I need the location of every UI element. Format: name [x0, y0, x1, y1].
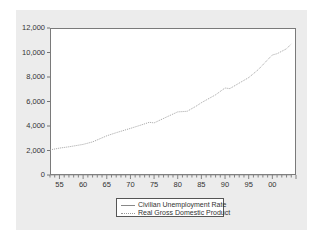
- y-tick-label: 10,000: [5, 48, 45, 57]
- legend: Civilian Unemployment Rate Real Gross Do…: [116, 198, 224, 217]
- y-tick-label: 0: [5, 170, 45, 179]
- y-tick-label: 8,000: [5, 72, 45, 81]
- x-tick-label: 00: [262, 180, 282, 189]
- dotted-line-swatch-icon: [121, 213, 135, 214]
- x-tick-label: 95: [239, 180, 259, 189]
- solid-line-swatch-icon: [121, 205, 135, 206]
- legend-label: Real Gross Domestic Product: [138, 209, 230, 216]
- gdp-line: [50, 44, 291, 150]
- axes: [47, 28, 296, 179]
- x-tick-label: 65: [97, 180, 117, 189]
- x-tick-label: 55: [49, 180, 69, 189]
- x-tick-label: 60: [73, 180, 93, 189]
- legend-label: Civilian Unemployment Rate: [138, 201, 226, 208]
- y-tick-label: 6,000: [5, 97, 45, 106]
- y-tick-label: 4,000: [5, 121, 45, 130]
- x-tick-label: 90: [215, 180, 235, 189]
- y-tick-label: 2,000: [5, 146, 45, 155]
- x-tick-label: 75: [144, 180, 164, 189]
- x-tick-label: 80: [168, 180, 188, 189]
- x-tick-label: 70: [120, 180, 140, 189]
- y-tick-label: 12,000: [5, 23, 45, 32]
- legend-item-unemployment: Civilian Unemployment Rate: [121, 201, 226, 209]
- legend-item-gdp: Real Gross Domestic Product: [121, 209, 230, 217]
- x-tick-label: 85: [191, 180, 211, 189]
